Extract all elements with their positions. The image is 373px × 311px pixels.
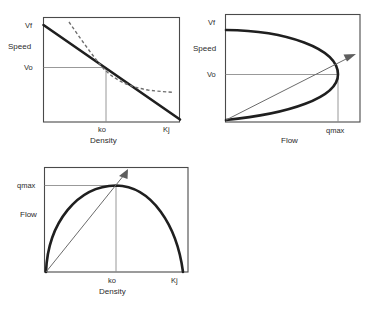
chart3-label-ko: ko: [108, 276, 116, 285]
series-speed-flow-parabola: [226, 30, 338, 120]
chart1-label-vo: Vo: [24, 63, 33, 72]
series-flow-density-parabola: [46, 186, 183, 273]
chart-speed-flow: Vf Speed Vo qmax Flow: [190, 0, 373, 160]
chart3-axis-label-density: Density: [99, 287, 126, 296]
chart1-label-ko: ko: [98, 125, 106, 134]
chart2-axis-label-flow: Flow: [281, 136, 298, 145]
series-greenberg-dashed: [69, 22, 174, 92]
chart-flow-density: qmax Flow ko Kj Density: [0, 160, 200, 311]
chart3-label-qmax: qmax: [17, 181, 35, 190]
chart2-label-qmax: qmax: [326, 126, 344, 135]
chart3-axis-label-flow: Flow: [20, 210, 37, 219]
chart2-label-vo: Vo: [207, 70, 216, 79]
chart-speed-density: Vf Speed Vo ko Kj Density: [0, 0, 190, 160]
fundamental-diagrams-figure: Vf Speed Vo ko Kj Density Vf Speed Vo qm…: [0, 0, 373, 311]
chart2-axis-label-speed: Speed: [193, 44, 216, 53]
series-greenshields-line: [44, 25, 181, 120]
chart1-axis-label-density: Density: [90, 136, 117, 145]
chart1-label-kj: Kj: [163, 125, 170, 134]
ray-arrow-head-icon: [119, 169, 128, 179]
chart1-label-vf: Vf: [25, 21, 32, 30]
chart2-label-vf: Vf: [208, 18, 215, 27]
chart3-label-kj: Kj: [171, 276, 178, 285]
chart1-axis-label-speed: Speed: [8, 42, 31, 51]
ray-arrow-head-icon: [344, 54, 357, 62]
